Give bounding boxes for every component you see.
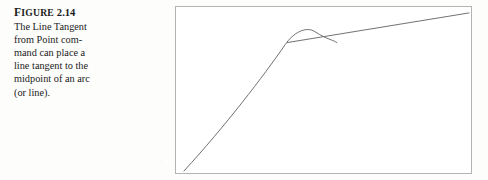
caption-line: The Line Tangent	[14, 20, 122, 33]
figure-caption: FIGURE 2.14 The Line Tangent from Point …	[14, 6, 122, 99]
caption-line: (or line).	[14, 86, 122, 99]
caption-line: midpoint of an arc	[14, 72, 122, 85]
caption-line: line tangent to the	[14, 59, 122, 72]
caption-line: mand can place a	[14, 46, 122, 59]
figure-panel	[175, 6, 472, 174]
figure-caption-text: The Line Tangent from Point com- mand ca…	[14, 20, 122, 99]
figure-label: FIGURE 2.14	[14, 6, 122, 19]
tangent-line-path	[287, 13, 469, 43]
figure-drawing	[176, 7, 471, 173]
arc-path	[184, 30, 337, 171]
figure-page: FIGURE 2.14 The Line Tangent from Point …	[0, 0, 488, 180]
caption-line: from Point com-	[14, 33, 122, 46]
figure-number: 2.14	[57, 7, 76, 18]
figure-label-word: IGURE	[21, 7, 54, 18]
